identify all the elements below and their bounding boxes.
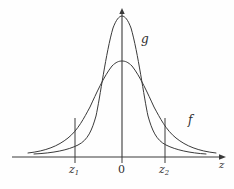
curve-f-label: f (188, 114, 192, 126)
y-axis-arrowhead (119, 8, 124, 14)
x-axis-label: z (219, 160, 224, 170)
x-tick-label-zero: 0 (118, 164, 125, 175)
z2-subscript: 2 (165, 169, 169, 177)
curve-g-path (34, 16, 206, 154)
x-tick-label-z2: z2 (159, 164, 169, 175)
x-tick-label-z1: z1 (69, 164, 79, 175)
normal-curves-figure: g f z1 0 z2 z (0, 0, 234, 189)
plot-canvas (0, 0, 234, 189)
z1-subscript: 1 (75, 169, 79, 177)
curve-g-label: g (141, 33, 149, 45)
